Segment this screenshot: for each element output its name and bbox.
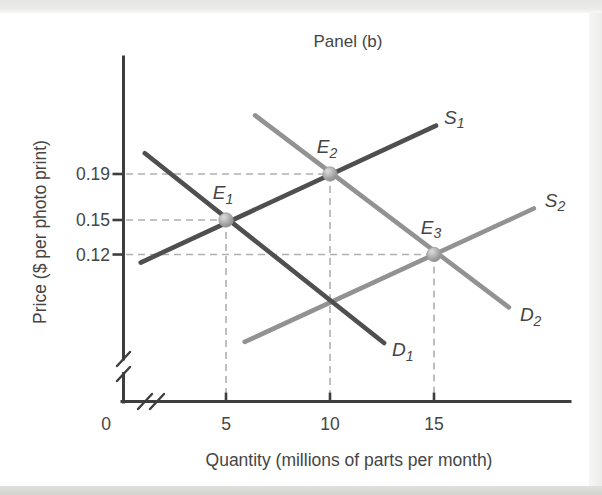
equilibrium-point-E3	[427, 247, 441, 261]
curve-label-S2: S2	[545, 190, 566, 215]
point-label-E1: E1	[213, 182, 233, 207]
curves	[141, 115, 534, 343]
supply-demand-chart: 0.190.150.12051015 E1E2E3S1S2D1D2 Panel …	[0, 0, 602, 495]
tick-marks-and-labels: 0.190.150.12051015	[76, 164, 444, 434]
curve-label-D1: D1	[392, 339, 414, 364]
y-tick-label-0.19: 0.19	[76, 164, 110, 184]
x-tick-label-10: 10	[320, 414, 340, 434]
panel-title: Panel (b)	[314, 32, 383, 51]
equilibrium-point-E2	[323, 167, 337, 181]
curve-label-D2: D2	[520, 304, 542, 329]
axes	[117, 57, 570, 409]
curve-D1	[145, 153, 384, 343]
x-tick-label-15: 15	[424, 414, 443, 434]
curve-label-S1: S1	[444, 107, 464, 132]
dashed-guides	[126, 174, 434, 393]
y-tick-label-0.12: 0.12	[76, 245, 110, 265]
y-axis-title: Price ($ per photo print)	[30, 140, 50, 324]
x-tick-label-0: 0	[101, 414, 111, 434]
point-label-E3: E3	[421, 217, 442, 242]
equilibrium-point-E1	[219, 213, 233, 227]
y-tick-label-0.15: 0.15	[76, 210, 110, 230]
figure-panel-b: 0.190.150.12051015 E1E2E3S1S2D1D2 Panel …	[0, 0, 602, 495]
point-label-E2: E2	[317, 136, 338, 161]
curve-S1	[141, 126, 436, 263]
x-axis-title: Quantity (millions of parts per month)	[206, 450, 493, 470]
x-tick-label-5: 5	[221, 414, 231, 434]
curve-S2	[245, 209, 534, 342]
